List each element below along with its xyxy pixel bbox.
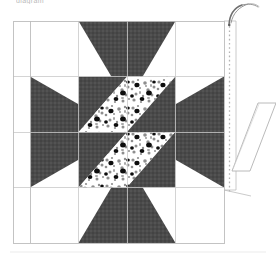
center-square-top-left [79, 77, 128, 133]
center-square-bottom-left [79, 132, 128, 188]
center-square-top-right [127, 77, 176, 133]
needle-entry-point [228, 24, 230, 26]
figure-canvas: diagram [0, 0, 276, 259]
center-square-bottom-right [127, 132, 176, 188]
quilt-block-illustration [0, 0, 276, 259]
folded-back-fabric-flap [232, 103, 276, 171]
curved-needle-with-thread [228, 4, 259, 27]
